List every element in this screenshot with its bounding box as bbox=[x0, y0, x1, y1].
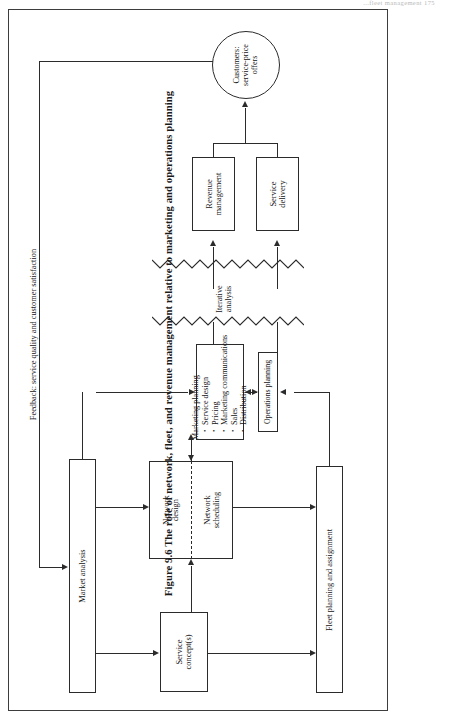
edge-market-analysis-to-network-design bbox=[96, 507, 143, 508]
edge-split-bar bbox=[213, 143, 278, 144]
node-revenue-management-label: Revenue management bbox=[204, 173, 223, 216]
node-market-analysis-label: Market analysis bbox=[78, 549, 87, 602]
arrowhead-marketing-planning bbox=[189, 389, 195, 395]
edge-feedback-top bbox=[39, 61, 213, 62]
node-network-scheduling-label: Network scheduling bbox=[202, 492, 221, 528]
list-item: Pricing bbox=[211, 344, 221, 432]
arrowhead-service-delivery bbox=[274, 240, 280, 246]
edge-market-analysis-riser bbox=[82, 392, 83, 460]
arrowhead-service-concept bbox=[153, 650, 159, 656]
edge-fleet-to-operations bbox=[294, 392, 330, 393]
edge-market-analysis-to-service-concept bbox=[96, 653, 153, 654]
marketing-planning-list: Service design Pricing Marketing communi… bbox=[201, 344, 249, 440]
node-service-delivery-label: Service delivery bbox=[268, 180, 287, 207]
zigzag-lower bbox=[152, 313, 304, 329]
node-marketing-planning-content: Marketing planning Service design Pricin… bbox=[191, 344, 249, 440]
edge-service-concept-to-fleet bbox=[208, 653, 310, 654]
list-item: Service design bbox=[201, 344, 211, 432]
list-item: Sales bbox=[230, 344, 240, 432]
node-marketing-planning: Marketing planning Service design Pricin… bbox=[196, 344, 244, 440]
edge-feedback-left bbox=[39, 61, 40, 568]
edge-service-concept-to-network bbox=[191, 566, 192, 612]
edge-fleet-riser bbox=[329, 392, 330, 466]
node-fleet-planning-label: Fleet planning and assignment bbox=[325, 528, 334, 630]
edge-feedback-bottom bbox=[39, 567, 63, 568]
node-service-delivery: Service delivery bbox=[256, 157, 299, 231]
annotation-feedback: Feedback: service quality and customer s… bbox=[29, 235, 38, 435]
edge-to-customers bbox=[245, 108, 246, 144]
node-customers-label: Customers: service-price offers bbox=[232, 44, 259, 86]
edge-stub-operations-up bbox=[277, 322, 278, 352]
edge-stub-marketing-up bbox=[213, 322, 214, 344]
node-operations-planning: Operations planning bbox=[258, 352, 278, 432]
arrowhead-revenue-management bbox=[210, 240, 216, 246]
arrowhead-to-customers bbox=[242, 101, 248, 107]
node-market-analysis: Market analysis bbox=[69, 459, 96, 693]
node-operations-planning-label: Operations planning bbox=[264, 360, 273, 424]
arrowhead-network-down bbox=[188, 455, 194, 461]
arrowhead-to-operations bbox=[252, 389, 258, 395]
list-item: Marketing communications bbox=[220, 344, 230, 432]
arrowhead-network-from-concept bbox=[188, 559, 194, 565]
node-fleet-planning: Fleet planning and assignment bbox=[316, 466, 343, 693]
edge-market-analysis-to-marketing bbox=[96, 392, 188, 393]
arrowhead-to-marketing bbox=[245, 389, 251, 395]
node-revenue-management: Revenue management bbox=[192, 157, 235, 231]
node-customers: Customers: service-price offers bbox=[212, 31, 280, 99]
running-header: ...fleet management 175 bbox=[363, 0, 435, 6]
figure-page: ...fleet management 175 Customers: servi… bbox=[0, 0, 449, 720]
edge-network-to-fleet bbox=[233, 507, 310, 508]
node-service-concepts-label: Service concept(s) bbox=[175, 635, 194, 670]
edge-split-left bbox=[213, 143, 214, 158]
figure-caption: Figure 9.6 The role of network, fleet, a… bbox=[163, 64, 174, 624]
arrowhead-operations-from-right bbox=[280, 389, 286, 395]
edge-split-right bbox=[277, 143, 278, 158]
arrowhead-network-up bbox=[188, 434, 194, 440]
node-service-concepts: Service concept(s) bbox=[160, 612, 208, 692]
arrowhead-feedback-to-market-analysis bbox=[62, 564, 68, 570]
divider-network-design-scheduling bbox=[191, 461, 192, 559]
